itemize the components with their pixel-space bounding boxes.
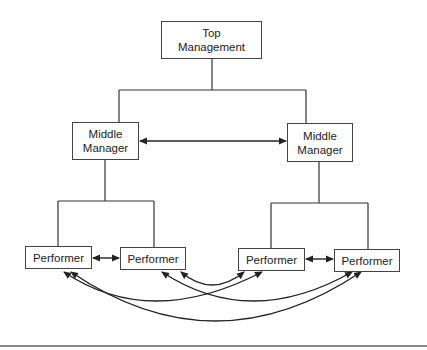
connector-top-to-middle xyxy=(119,59,306,123)
node-performer-4: Performer xyxy=(334,249,400,272)
connector-middle-left-to-performers xyxy=(58,160,154,247)
bottom-rule xyxy=(0,345,427,347)
node-top-management: Top Management xyxy=(161,21,262,59)
node-label-line1: Middle xyxy=(297,129,342,143)
node-label: Performer xyxy=(33,251,84,265)
arc-performer2-performer4 xyxy=(162,272,352,301)
node-label: Performer xyxy=(127,252,178,266)
node-label-line2: Manager xyxy=(83,141,128,155)
node-performer-2: Performer xyxy=(120,247,186,270)
node-performer-3: Performer xyxy=(238,248,305,271)
node-label: Performer xyxy=(341,254,392,268)
node-middle-manager-right: Middle Manager xyxy=(287,123,353,162)
node-label-line2: Management xyxy=(178,40,245,54)
node-performer-1: Performer xyxy=(25,246,92,269)
node-label-line1: Top xyxy=(178,26,245,40)
node-middle-manager-left: Middle Manager xyxy=(72,122,139,160)
node-label-line2: Manager xyxy=(297,143,342,157)
node-label: Performer xyxy=(246,253,297,267)
node-label-line1: Middle xyxy=(83,127,128,141)
connector-middle-right-to-performers xyxy=(271,162,368,249)
arc-performer2-performer3 xyxy=(181,272,244,285)
